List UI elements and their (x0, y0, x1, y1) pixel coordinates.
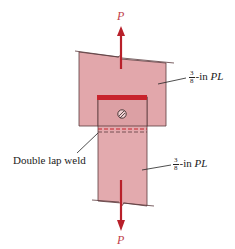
weld-visible (97, 95, 147, 100)
plate-diagram (0, 0, 235, 249)
top-plate-label: 38-in PL (189, 70, 223, 85)
load-label-bottom: P (117, 233, 124, 248)
hole-icon (118, 110, 126, 118)
leader-weld (77, 133, 98, 153)
bottom-plate-label: 38-in PL (173, 157, 207, 172)
weld-label: Double lap weld (13, 155, 86, 166)
load-label-top: P (117, 9, 124, 24)
